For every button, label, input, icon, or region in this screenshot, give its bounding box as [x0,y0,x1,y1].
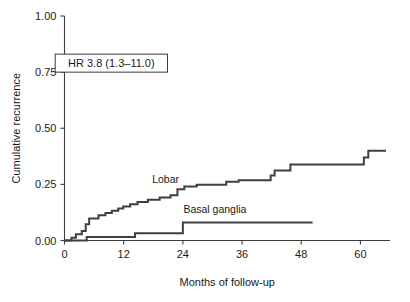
x-tick-label: 36 [236,248,248,260]
x-tick-label: 48 [295,248,307,260]
series-curves [65,151,387,241]
x-tick-label: 24 [177,248,189,260]
x-tick-label: 60 [354,248,366,260]
x-axis: 01224364860 [61,241,390,260]
y-tick-marks [61,16,65,241]
y-tick-labels: 0.000.250.500.751.00 [35,10,56,247]
chart-canvas: 0.000.250.500.751.00 01224364860 LobarBa… [0,0,410,302]
x-tick-labels: 01224364860 [61,248,366,260]
chart-annotations: HR 3.8 (1.3–11.0) [55,54,167,72]
cumulative-recurrence-chart: 0.000.250.500.751.00 01224364860 LobarBa… [0,0,410,302]
y-axis-title: Cumulative recurrence [10,73,22,184]
y-tick-label: 1.00 [35,10,56,22]
y-tick-label: 0.00 [35,235,56,247]
series-label-lobar: Lobar [152,173,179,185]
y-tick-label: 0.75 [35,66,56,78]
annotation-text-hazard-ratio: HR 3.8 (1.3–11.0) [68,57,155,69]
series-label-basal-ganglia: Basal ganglia [183,203,246,215]
x-tick-label: 12 [118,248,130,260]
y-tick-label: 0.50 [35,122,56,134]
series-inline-labels: LobarBasal ganglia [152,173,246,215]
x-tick-label: 0 [61,248,67,260]
x-tick-marks [65,241,361,245]
series-curve-lobar [65,151,387,241]
y-axis: 0.000.250.500.751.00 [35,10,64,247]
y-tick-label: 0.25 [35,178,56,190]
series-curve-basal-ganglia [65,223,313,241]
x-axis-title: Months of follow-up [180,276,275,288]
